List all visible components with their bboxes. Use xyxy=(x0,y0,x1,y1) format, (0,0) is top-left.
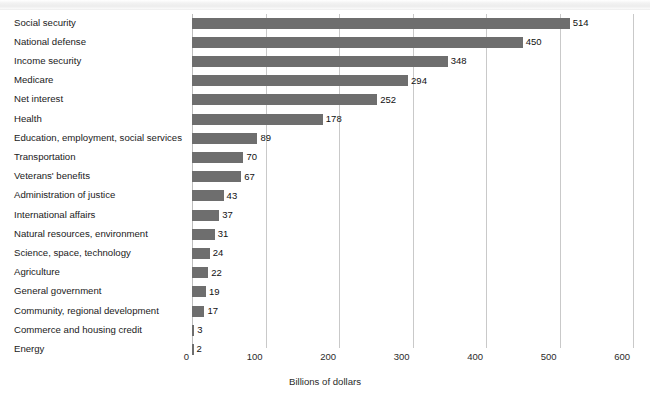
category-label: Science, space, technology xyxy=(14,246,188,260)
bar xyxy=(192,37,523,48)
bar-value-label: 514 xyxy=(573,16,589,29)
bar xyxy=(192,229,215,240)
x-tick-label-0: 0 xyxy=(184,351,192,363)
bar-row: Transportation70 xyxy=(192,148,633,167)
bar xyxy=(192,286,206,297)
bar-value-label: 70 xyxy=(246,150,257,163)
category-label: Net interest xyxy=(14,92,188,106)
bar-value-label: 450 xyxy=(526,35,542,48)
bar-value-label: 17 xyxy=(207,304,218,317)
bar-row: Net interest252 xyxy=(192,91,633,110)
bar-value-label: 178 xyxy=(326,112,342,125)
bar-row: Science, space, technology24 xyxy=(192,244,633,263)
bar-row: Community, regional development17 xyxy=(192,302,633,321)
category-label: Veterans' benefits xyxy=(14,169,188,183)
bar-row: Natural resources, environment31 xyxy=(192,225,633,244)
category-label: National defense xyxy=(14,35,188,49)
cropped-title-band xyxy=(0,0,650,10)
category-label: Medicare xyxy=(14,73,188,87)
bar-value-label: 43 xyxy=(227,189,238,202)
bar-row: Veterans' benefits67 xyxy=(192,168,633,187)
bar-row: National defense450 xyxy=(192,33,633,52)
bar-value-label: 24 xyxy=(213,246,224,259)
x-tick-label-500: 500 xyxy=(541,351,560,363)
bar-value-label: 294 xyxy=(411,74,427,87)
bar-value-label: 19 xyxy=(209,285,220,298)
plot-area: Social security514National defense450Inc… xyxy=(192,14,633,348)
bar xyxy=(192,75,408,86)
gridline-600 xyxy=(633,14,634,348)
bar xyxy=(192,248,210,259)
category-label: Community, regional development xyxy=(14,304,188,318)
bar-row: Social security514 xyxy=(192,14,633,33)
category-label: Administration of justice xyxy=(14,188,188,202)
bar-row: Income security348 xyxy=(192,52,633,71)
x-axis: 0100200300400500600 xyxy=(192,348,633,366)
bar-row: International affairs37 xyxy=(192,206,633,225)
bar xyxy=(192,210,219,221)
bar xyxy=(192,152,243,163)
x-tick-label-400: 400 xyxy=(467,351,486,363)
bar-value-label: 89 xyxy=(260,131,271,144)
x-tick-label-300: 300 xyxy=(394,351,413,363)
bar-value-label: 31 xyxy=(218,227,229,240)
bar-row: Medicare294 xyxy=(192,72,633,91)
category-label: Natural resources, environment xyxy=(14,227,188,241)
bar-value-label: 348 xyxy=(451,54,467,67)
bar-row: Commerce and housing credit3 xyxy=(192,321,633,340)
bar xyxy=(192,18,570,29)
category-label: Commerce and housing credit xyxy=(14,323,188,337)
bar-value-label: 3 xyxy=(197,323,202,336)
bar xyxy=(192,171,241,182)
category-label: Income security xyxy=(14,54,188,68)
bar-value-label: 67 xyxy=(244,170,255,183)
bar xyxy=(192,94,377,105)
bar-value-label: 37 xyxy=(222,208,233,221)
bar-row: Health178 xyxy=(192,110,633,129)
bar-value-label: 22 xyxy=(211,266,222,279)
bar xyxy=(192,114,323,125)
category-label: Health xyxy=(14,112,188,126)
bar xyxy=(192,306,204,317)
x-tick-label-600: 600 xyxy=(614,351,633,363)
category-label: Transportation xyxy=(14,150,188,164)
bar xyxy=(192,325,194,336)
x-axis-title: Billions of dollars xyxy=(0,376,650,387)
bar xyxy=(192,56,448,67)
category-label: Agriculture xyxy=(14,265,188,279)
x-tick-label-200: 200 xyxy=(320,351,339,363)
category-label: Energy xyxy=(14,342,188,356)
bar-row: Education, employment, social services89 xyxy=(192,129,633,148)
x-tick-label-100: 100 xyxy=(247,351,266,363)
bar xyxy=(192,190,224,201)
bar-chart: Social security514National defense450Inc… xyxy=(0,12,650,394)
bar-value-label: 252 xyxy=(380,93,396,106)
bar-row: General government19 xyxy=(192,283,633,302)
bar xyxy=(192,133,257,144)
bar-row: Administration of justice43 xyxy=(192,187,633,206)
category-label: Education, employment, social services xyxy=(14,131,188,145)
bar-row: Agriculture22 xyxy=(192,264,633,283)
category-label: General government xyxy=(14,284,188,298)
category-label: International affairs xyxy=(14,208,188,222)
bar xyxy=(192,267,208,278)
category-label: Social security xyxy=(14,16,188,30)
